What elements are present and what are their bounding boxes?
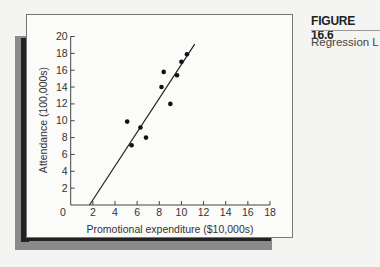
x-tick-label: 4 <box>112 206 118 218</box>
data-point <box>161 70 166 75</box>
y-tick-label: 6 <box>62 148 68 160</box>
regression-line <box>90 44 195 205</box>
x-tick-label: 6 <box>134 206 140 218</box>
x-tick-label: 8 <box>156 206 162 218</box>
data-point <box>185 52 190 57</box>
x-tick-label: 12 <box>198 206 210 218</box>
y-axis-label: Attendance (100,000s) <box>37 67 49 173</box>
data-point <box>179 59 184 64</box>
data-point <box>129 143 134 148</box>
origin-label: 0 <box>60 206 66 218</box>
figure-rule <box>311 30 380 31</box>
ticks: 246810121416182468101214161820 <box>56 30 276 218</box>
x-tick-label: 18 <box>264 206 276 218</box>
y-tick-label: 20 <box>56 30 68 42</box>
y-tick-label: 14 <box>56 81 68 93</box>
figure-caption: Regression L <box>311 36 379 48</box>
y-tick-label: 12 <box>56 97 68 109</box>
data-point <box>144 135 149 140</box>
y-tick-label: 18 <box>56 47 68 59</box>
y-tick-label: 2 <box>62 182 68 194</box>
y-tick-label: 16 <box>56 64 68 76</box>
data-point <box>138 125 143 130</box>
data-point <box>168 102 173 107</box>
data-point <box>175 73 180 78</box>
x-tick-label: 10 <box>176 206 188 218</box>
axes <box>71 37 270 206</box>
data-point <box>125 119 130 124</box>
x-axis-label: Promotional expenditure ($10,000s) <box>87 223 254 235</box>
y-tick-label: 8 <box>62 131 68 143</box>
x-tick-label: 14 <box>220 206 232 218</box>
x-tick-label: 16 <box>242 206 254 218</box>
y-tick-label: 10 <box>56 114 68 126</box>
x-tick-label: 2 <box>90 206 96 218</box>
y-tick-label: 4 <box>62 165 68 177</box>
data-point <box>159 85 164 90</box>
regression-line-group <box>90 44 195 205</box>
